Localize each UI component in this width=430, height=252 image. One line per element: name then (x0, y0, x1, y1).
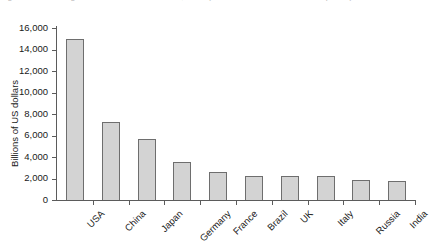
x-axis-category-label: France (231, 208, 260, 237)
figure-caption-cropped: Figure 1.1 The largest economies in the … (0, 0, 430, 3)
x-axis-category-label: China (122, 208, 147, 233)
x-axis-tick-mark (415, 200, 416, 205)
x-axis-tick-mark (129, 200, 130, 205)
bar (102, 122, 120, 200)
y-axis-tick: 14,000 (0, 50, 57, 51)
y-axis-tick-label: 2,000 (24, 172, 48, 183)
y-axis-tick: 4,000 (0, 157, 57, 158)
y-axis-tick: 10,000 (0, 93, 57, 94)
y-axis-tick: 0 (0, 200, 57, 201)
y-axis-tick-label: 12,000 (19, 65, 48, 76)
bar (138, 139, 156, 200)
chart-figure: Figure 1.1 The largest economies in the … (0, 0, 430, 252)
bar (281, 176, 299, 200)
plot-area (57, 28, 415, 200)
y-axis-tick-label: 6,000 (24, 129, 48, 140)
bar (388, 181, 406, 200)
y-axis-tick-label: 14,000 (19, 43, 48, 54)
x-axis-category-label: USA (85, 208, 107, 230)
x-axis-category-label: Brazil (265, 208, 290, 233)
y-axis-tick-label: 16,000 (19, 22, 48, 33)
x-axis-tick-mark (343, 200, 344, 205)
x-axis-tick-mark (272, 200, 273, 205)
y-axis-tick: 6,000 (0, 136, 57, 137)
x-axis-tick-mark (379, 200, 380, 205)
y-axis-tick-mark (52, 200, 57, 201)
x-axis-category-label: UK (298, 208, 315, 225)
bar (209, 172, 227, 200)
bar (352, 180, 370, 200)
x-axis-category-label: Italy (335, 208, 355, 228)
bar (245, 176, 263, 200)
y-axis-tick: 8,000 (0, 114, 57, 115)
x-axis-category-label: Russia (374, 208, 402, 236)
bar (317, 176, 335, 200)
x-axis-category-label: Japan (158, 208, 184, 234)
bar (173, 162, 191, 200)
x-axis-tick-mark (200, 200, 201, 205)
x-axis-category-label: Germany (198, 208, 233, 243)
x-axis-tick-mark (93, 200, 94, 205)
x-axis-category-label: India (407, 208, 429, 230)
y-axis-tick: 16,000 (0, 28, 57, 29)
bar (66, 39, 84, 200)
y-axis-tick-label: 10,000 (19, 86, 48, 97)
x-axis-tick-mark (236, 200, 237, 205)
y-axis-tick-label: 4,000 (24, 151, 48, 162)
x-axis-tick-mark (164, 200, 165, 205)
x-axis-tick-mark (308, 200, 309, 205)
y-axis-tick-label: 0 (43, 194, 48, 205)
y-axis-tick: 2,000 (0, 179, 57, 180)
y-axis-tick-label: 8,000 (24, 108, 48, 119)
y-axis-tick: 12,000 (0, 71, 57, 72)
